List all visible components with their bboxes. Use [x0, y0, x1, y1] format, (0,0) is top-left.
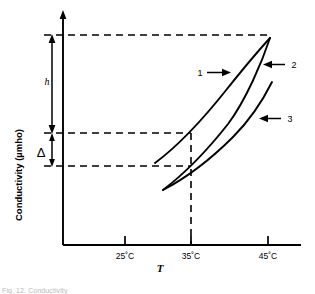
curve-1-path	[155, 38, 270, 163]
y-axis-arrowhead-icon	[60, 10, 67, 19]
x-tick-label-25: 25˚C	[116, 251, 134, 261]
curve-callout-label-1: 1	[197, 68, 202, 78]
axes-group	[60, 10, 301, 245]
data-curves	[155, 38, 272, 190]
measure-annotations: h Δ	[37, 34, 56, 167]
measure-h-arrow-icon	[49, 34, 56, 134]
x-tick-label-45: 45˚C	[259, 251, 277, 261]
figure-caption: Fig. 12. Conductivity	[2, 287, 68, 294]
curve-callout-arrow-1-icon	[207, 69, 231, 76]
reference-lines	[44, 35, 270, 245]
curve-callout-arrow-2-icon	[263, 61, 285, 68]
curve-callout-label-2: 2	[291, 60, 296, 70]
measure-delta-arrow-icon	[49, 133, 55, 167]
curve-callout-arrow-3-icon	[259, 115, 281, 122]
x-tick-label-35: 35˚C	[182, 251, 200, 261]
x-axis-title: T	[157, 262, 165, 274]
measure-h-label: h	[45, 76, 50, 87]
measure-delta-label: Δ	[37, 145, 46, 160]
curve-2-path	[163, 38, 270, 190]
curve-callout-label-3: 3	[287, 114, 292, 124]
y-axis-title: Conductivity (µmho)	[13, 129, 24, 221]
x-axis-tick-labels: 25˚C 35˚C 45˚C	[116, 251, 277, 261]
